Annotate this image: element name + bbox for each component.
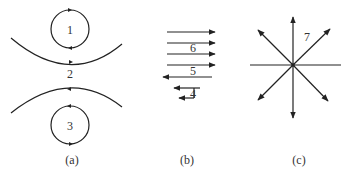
panel-b: 6 5 4 (b) (163, 32, 215, 167)
arrow-up-left (258, 30, 293, 65)
label-2: 2 (67, 67, 73, 81)
panel-c: 7 (c) (250, 17, 341, 167)
label-6: 6 (190, 41, 196, 55)
caption-c: (c) (292, 153, 305, 167)
vortex-3-bottom-arrow-icon (69, 142, 73, 146)
vortex-1-bottom-arrow-icon (68, 46, 72, 50)
label-4: 4 (190, 87, 196, 101)
figure: 1 2 3 (a) 6 5 4 (b) 7 (0, 0, 350, 178)
upper-streamline-arrow-icon (69, 60, 73, 64)
label-3: 3 (67, 119, 73, 133)
arrow-down-left (258, 65, 293, 100)
center-point (291, 63, 295, 67)
vortex-1-top-arrow-icon (68, 8, 72, 12)
caption-b: (b) (180, 153, 194, 167)
label-1: 1 (67, 23, 73, 37)
arrow-up-right (293, 29, 330, 65)
arrow-down-right (293, 65, 328, 101)
upper-streamline (11, 38, 122, 65)
vortex-3-top-arrow-icon (67, 104, 71, 108)
lower-streamline (11, 88, 122, 113)
label-5: 5 (190, 64, 196, 78)
panel-a: 1 2 3 (a) (11, 8, 122, 167)
label-7: 7 (304, 30, 310, 44)
caption-a: (a) (65, 153, 78, 167)
